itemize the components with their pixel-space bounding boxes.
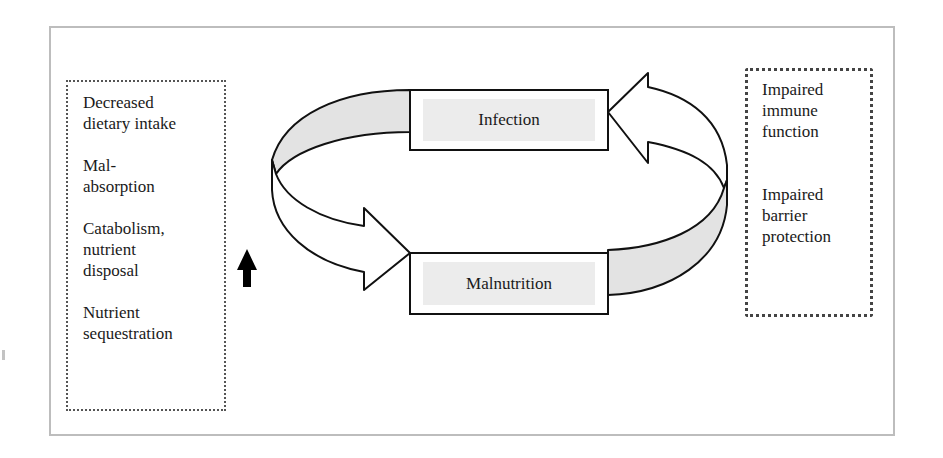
right-ribbon-arrow — [608, 73, 727, 188]
right-ribbon-shaded-band — [608, 180, 727, 295]
up-arrow-icon — [236, 248, 258, 288]
left-ribbon-shaded-band — [272, 90, 410, 174]
cycle-arrows — [0, 0, 943, 458]
infection-label: Infection — [423, 99, 595, 141]
infection-node: Infection — [409, 89, 609, 151]
left-ribbon-arrow — [272, 160, 410, 290]
malnutrition-label: Malnutrition — [423, 262, 595, 305]
edge-artifact — [2, 350, 5, 360]
malnutrition-node: Malnutrition — [409, 252, 609, 315]
